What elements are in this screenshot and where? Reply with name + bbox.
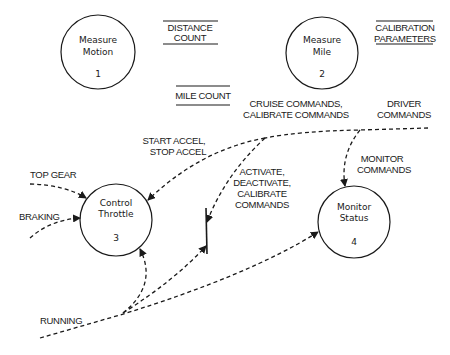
flow-label-activate-line2: DEACTIVATE, bbox=[233, 177, 291, 188]
flow-running-to-bar bbox=[123, 246, 206, 313]
process-number: 1 bbox=[95, 69, 101, 79]
flow-driver-commands bbox=[265, 128, 428, 138]
process-label-line2: Status bbox=[340, 213, 369, 223]
flow-label-running: RUNNING bbox=[40, 315, 82, 326]
flow-running-to-throttle bbox=[123, 249, 146, 313]
flow-top-gear bbox=[30, 184, 86, 198]
process-measure-mile: Measure Mile 2 bbox=[286, 17, 358, 89]
process-measure-motion: Measure Motion 1 bbox=[61, 15, 135, 89]
process-label-line1: Measure bbox=[79, 35, 118, 45]
flow-monitor-commands bbox=[344, 130, 360, 186]
flow-label-activate-line1: ACTIVATE, bbox=[240, 166, 285, 177]
process-number: 4 bbox=[351, 237, 357, 247]
store-label-line2: PARAMETERS bbox=[374, 33, 436, 44]
flow-label-driver-line2: COMMANDS bbox=[377, 109, 431, 120]
store-mile-count: MILE COUNT bbox=[175, 86, 231, 105]
flow-label-cruise-line1: CRUISE COMMANDS, bbox=[250, 98, 343, 109]
flow-label-braking: BRAKING bbox=[19, 211, 60, 222]
data-flow-diagram: Measure Motion 1 Measure Mile 2 Control … bbox=[0, 0, 450, 355]
store-label-line1: CALIBRATION bbox=[375, 22, 435, 33]
process-monitor-status: Monitor Status 4 bbox=[318, 186, 390, 258]
process-number: 2 bbox=[319, 69, 325, 79]
flow-label-activate-line4: COMMANDS bbox=[235, 199, 289, 210]
process-label-line2: Motion bbox=[83, 47, 114, 57]
process-circle bbox=[80, 184, 152, 256]
flow-label-driver-line1: DRIVER bbox=[387, 98, 422, 109]
flow-label-accel-line1: START ACCEL, bbox=[143, 135, 206, 146]
flow-label-top-gear: TOP GEAR bbox=[30, 169, 77, 180]
store-label-line2: COUNT bbox=[174, 32, 207, 43]
store-distance-count: DISTANCE COUNT bbox=[163, 21, 218, 44]
process-label-line1: Monitor bbox=[337, 202, 372, 212]
process-label-line1: Measure bbox=[303, 35, 342, 45]
flow-label-monitor-line1: MONITOR bbox=[361, 153, 404, 164]
terminator-bar bbox=[206, 208, 207, 254]
store-calibration-parameters: CALIBRATION PARAMETERS bbox=[374, 21, 436, 44]
process-label-line1: Control bbox=[100, 198, 133, 208]
process-label-line2: Throttle bbox=[97, 209, 134, 219]
process-control-throttle: Control Throttle 3 bbox=[80, 184, 152, 256]
flow-label-activate-line3: CALIBRATE bbox=[237, 188, 286, 199]
store-label-line1: MILE COUNT bbox=[175, 90, 231, 101]
process-number: 3 bbox=[113, 233, 119, 243]
flow-label-monitor-line2: COMMANDS bbox=[357, 164, 411, 175]
process-label-line2: Mile bbox=[313, 47, 332, 57]
flow-label-cruise-line2: CALIBRATE COMMANDS bbox=[243, 109, 349, 120]
flow-label-accel-line2: STOP ACCEL bbox=[150, 146, 206, 157]
